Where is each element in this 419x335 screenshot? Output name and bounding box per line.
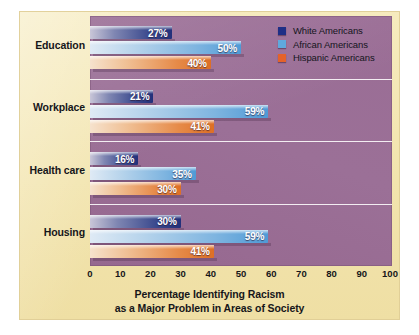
bar-education-white-americans[interactable]: 27% [90,26,172,39]
legend-swatch-icon [278,40,286,48]
caption-line-1: Percentage Identifying Racism [19,288,400,302]
bar-workplace-hispanic-americans[interactable]: 41% [90,120,214,133]
legend-item-hispanic-americans[interactable]: Hispanic Americans [278,51,390,65]
x-axis-tick: 90 [357,268,368,279]
x-axis-tick: 30 [175,268,186,279]
legend-label: White Americans [293,25,363,36]
bar-value-label: 40% [187,57,206,68]
x-axis-tick: 70 [296,268,307,279]
bar-value-label: 27% [148,27,167,38]
legend: White Americans African Americans Hispan… [278,24,390,65]
bar-value-label: 35% [172,168,191,179]
category-label-health-care: Health care [0,164,85,176]
bar-workplace-white-americans[interactable]: 21% [90,90,153,103]
bar-education-african-americans[interactable]: 50% [90,41,241,54]
chart-caption: Percentage Identifying Racism as a Major… [19,288,400,315]
bar-value-label: 41% [190,246,209,257]
bar-highlight [90,105,268,109]
x-axis-tick: 20 [145,268,156,279]
x-axis-tick: 0 [87,268,92,279]
legend-swatch-icon [278,54,286,62]
bar-housing-white-americans[interactable]: 30% [90,215,181,228]
x-axis-tick: 50 [236,268,247,279]
category-label-education: Education [0,39,85,51]
caption-line-2: as a Major Problem in Areas of Society [19,302,400,316]
bar-workplace-african-americans[interactable]: 59% [90,105,268,118]
bar-education-hispanic-americans[interactable]: 40% [90,56,211,69]
bar-group-health-care: 16% 35% 30% [90,141,392,204]
bar-value-label: 30% [157,216,176,227]
bar-group-workplace: 21% 59% 41% [90,79,392,142]
bar-value-label: 30% [157,183,176,194]
x-axis-tick: 60 [266,268,277,279]
bar-value-label: 16% [115,153,134,164]
bar-value-label: 50% [218,42,237,53]
bar-group-housing: 30% 59% 41% [90,204,392,267]
bar-value-label: 59% [245,106,264,117]
bar-housing-african-americans[interactable]: 59% [90,230,268,243]
bar-value-label: 59% [245,231,264,242]
legend-item-white-americans[interactable]: White Americans [278,24,390,38]
bar-health-care-african-americans[interactable]: 35% [90,167,196,180]
x-axis-tick: 40 [206,268,217,279]
bar-health-care-white-americans[interactable]: 16% [90,152,138,165]
legend-item-african-americans[interactable]: African Americans [278,38,390,52]
bar-highlight [90,230,268,234]
plot-area: 27% 50% 40% [90,16,392,266]
bar-health-care-hispanic-americans[interactable]: 30% [90,182,181,195]
bar-housing-hispanic-americans[interactable]: 41% [90,245,214,258]
legend-label: Hispanic Americans [293,52,375,63]
figure: 27% 50% 40% [0,0,419,335]
category-label-housing: Housing [0,226,85,238]
legend-label: African Americans [293,39,368,50]
cropped-header-text [18,0,408,6]
category-label-workplace: Workplace [0,101,85,113]
legend-swatch-icon [278,27,286,35]
x-axis-tick: 10 [115,268,126,279]
chart-card: 27% 50% 40% [19,11,400,320]
bar-value-label: 41% [190,121,209,132]
x-axis-tick: 80 [326,268,337,279]
bar-value-label: 21% [130,91,149,102]
x-axis: 0 10 20 30 40 50 60 70 80 90 100 [90,266,392,282]
x-axis-tick: 100 [382,268,398,279]
